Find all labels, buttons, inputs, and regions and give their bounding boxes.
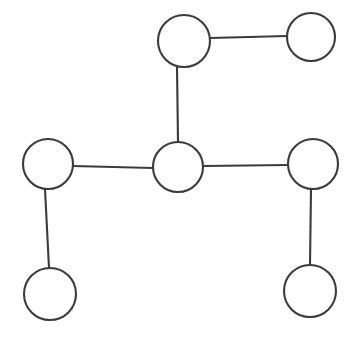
edge-left-middle-to-center xyxy=(73,166,153,168)
bottom-left-node-circle[interactable] xyxy=(24,268,76,320)
edge-left-middle-to-bottom-left xyxy=(45,189,49,268)
edge-top-middle-to-top-right xyxy=(210,36,287,38)
right-middle-node-circle[interactable] xyxy=(288,139,338,189)
center-node-circle[interactable] xyxy=(153,142,203,192)
edge-top-middle-to-center xyxy=(177,67,178,142)
top-middle-node[interactable] xyxy=(158,15,210,67)
edge-center-to-right-middle xyxy=(203,165,288,166)
node-layer xyxy=(23,13,338,320)
edge-right-middle-to-bottom-right xyxy=(310,189,311,265)
left-middle-node-circle[interactable] xyxy=(23,139,73,189)
left-middle-node[interactable] xyxy=(23,139,73,189)
center-node[interactable] xyxy=(153,142,203,192)
bottom-left-node[interactable] xyxy=(24,268,76,320)
top-right-node-circle[interactable] xyxy=(287,13,335,61)
top-middle-node-circle[interactable] xyxy=(158,15,210,67)
bottom-right-node-circle[interactable] xyxy=(284,265,336,317)
right-middle-node[interactable] xyxy=(288,139,338,189)
diagram-canvas xyxy=(0,0,357,340)
graph-svg xyxy=(0,0,357,340)
top-right-node[interactable] xyxy=(287,13,335,61)
bottom-right-node[interactable] xyxy=(284,265,336,317)
